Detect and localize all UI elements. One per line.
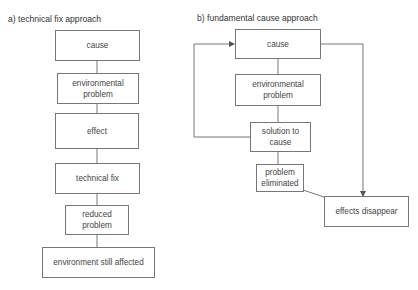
a-effect-box: effect: [55, 113, 139, 149]
b-solution-to-cause-box: solution to cause: [250, 122, 311, 152]
b-effects-disappear-box: effects disappear: [324, 196, 409, 227]
b-cause-box: cause: [235, 29, 321, 59]
b-environmental-problem-box: environmental problem: [235, 74, 321, 106]
a-technical-fix-box: technical fix: [55, 163, 140, 194]
a-environmental-problem-box: environmental problem: [57, 73, 139, 104]
a-cause-box: cause: [55, 30, 140, 61]
diagram-a-title: a) technical fix approach: [8, 14, 101, 24]
a-reduced-problem-box: reduced problem: [65, 205, 129, 235]
diagram-b-title: b) fundamental cause approach: [197, 13, 318, 23]
b-problem-eliminated-box: problem eliminated: [256, 164, 304, 192]
a-environment-still-affected-box: environment still affected: [42, 247, 155, 278]
